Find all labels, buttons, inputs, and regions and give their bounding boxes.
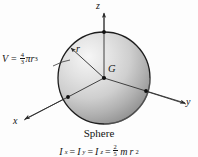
axis-label-y: y xyxy=(186,97,190,107)
inertia-fraction: 2 5 xyxy=(113,144,118,157)
inertia-equals-2: = xyxy=(87,146,93,157)
center-of-mass-label: G xyxy=(108,64,116,75)
sphere-figure: z y x G r V = 4 3 πr3 Sphere Ix = Iy = I… xyxy=(0,0,198,157)
inertia-equals-1: = xyxy=(70,146,76,157)
inertia-exponent: 2 xyxy=(135,148,138,155)
volume-formula: V = 4 3 πr3 xyxy=(2,52,38,67)
inertia-denominator: 5 xyxy=(113,151,118,157)
x-surface-dot xyxy=(66,95,70,99)
volume-denominator: 3 xyxy=(20,59,25,66)
volume-exponent: 3 xyxy=(34,56,37,63)
inertia-symbol-y: I xyxy=(77,146,80,157)
y-surface-dot xyxy=(144,89,148,93)
radius-label: r xyxy=(76,44,80,54)
center-dot-G xyxy=(102,76,106,80)
figure-caption: Sphere xyxy=(0,127,198,139)
inertia-symbol-z: I xyxy=(95,146,98,157)
x-axis-ray xyxy=(25,97,68,119)
axis-label-x: x xyxy=(13,116,17,126)
axis-label-z: z xyxy=(96,1,100,11)
inertia-sub-x: x xyxy=(65,148,68,155)
y-axis-ray xyxy=(146,91,185,103)
inertia-sub-y: y xyxy=(83,148,86,155)
inertia-equals-3: = xyxy=(105,146,111,157)
inertia-sub-z: z xyxy=(100,148,103,155)
inertia-radius-symbol: r xyxy=(130,146,134,157)
z-surface-dot xyxy=(102,30,106,34)
volume-fraction: 4 3 xyxy=(20,52,25,67)
volume-equals: = xyxy=(11,54,17,64)
inertia-symbol-x: I xyxy=(59,146,62,157)
inertia-mass-symbol: m xyxy=(120,146,127,157)
volume-symbol: V xyxy=(2,54,8,64)
moment-of-inertia-formula: Ix = Iy = Iz = 2 5 mr2 xyxy=(0,144,198,157)
